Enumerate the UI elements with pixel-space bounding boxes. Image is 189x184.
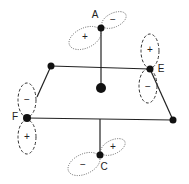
- atom-C: [97, 152, 104, 159]
- bond-F-topleft: [37, 66, 51, 97]
- sign-minus: −: [24, 94, 30, 105]
- label-A: A: [92, 9, 99, 20]
- label-C: C: [100, 161, 107, 172]
- bond-E-right: [150, 69, 173, 120]
- orbital-diagram: + − + − − + + − A E F C: [0, 0, 189, 184]
- labels: A E F C: [12, 9, 165, 172]
- label-F: F: [12, 111, 18, 122]
- atom-top-left: [48, 63, 55, 70]
- atom-A: [98, 25, 105, 32]
- sign-plus: +: [24, 131, 30, 142]
- label-E: E: [158, 63, 165, 74]
- sign-plus: +: [82, 31, 88, 42]
- sign-plus: +: [110, 141, 116, 152]
- sign-plus: +: [147, 44, 153, 55]
- atom-right: [170, 117, 177, 124]
- atom-F: [23, 114, 31, 122]
- atom-E: [147, 66, 154, 73]
- orbital-C: + −: [64, 135, 127, 180]
- sign-minus: −: [110, 14, 116, 25]
- atom-center: [96, 83, 106, 93]
- sign-minus: −: [80, 159, 86, 170]
- sign-minus: −: [145, 81, 151, 92]
